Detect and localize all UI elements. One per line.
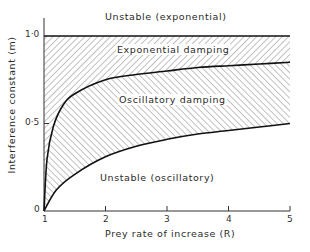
y-tick-0: 0 xyxy=(34,204,40,214)
x-tick-5: 5 xyxy=(287,214,293,224)
label-oscillatory-damping: Oscillatory damping xyxy=(118,94,227,105)
y-axis-label: Interference constant (m) xyxy=(6,54,17,174)
label-unstable-oscillatory: Unstable (oscillatory) xyxy=(100,172,214,183)
x-ticks xyxy=(106,206,291,211)
x-tick-4: 4 xyxy=(226,214,232,224)
x-tick-3: 3 xyxy=(164,214,170,224)
x-tick-1: 1 xyxy=(42,214,48,224)
x-axis-label: Prey rate of increase (R) xyxy=(105,228,235,239)
x-tick-2: 2 xyxy=(103,214,109,224)
y-tick-1-0: 1·0 xyxy=(25,29,39,39)
y-tick-0-5: 0·5 xyxy=(25,117,39,127)
label-unstable-exponential: Unstable (exponential) xyxy=(105,11,226,22)
label-exponential-damping: Exponential damping xyxy=(116,44,230,55)
